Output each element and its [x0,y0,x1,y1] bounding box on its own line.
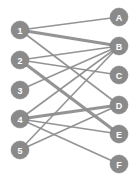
graph-node-2[interactable]: 2 [11,51,29,69]
node-circle[interactable] [11,110,29,128]
graph-node-4[interactable]: 4 [11,110,29,128]
node-circle[interactable] [110,155,128,173]
node-circle[interactable] [11,21,29,39]
node-circle[interactable] [110,66,128,84]
node-circle[interactable] [11,51,29,69]
graph-edge [20,17,119,30]
graph-node-5[interactable]: 5 [11,141,29,159]
graph-node-f[interactable]: F [110,155,128,173]
node-circle[interactable] [110,125,128,143]
graph-node-a[interactable]: A [110,8,128,26]
node-circle[interactable] [110,37,128,55]
graph-node-1[interactable]: 1 [11,21,29,39]
nodes-layer: 12345ABCDEF [11,8,128,173]
graph-node-3[interactable]: 3 [11,81,29,99]
graph-node-b[interactable]: B [110,37,128,55]
node-circle[interactable] [11,141,29,159]
graph-node-c[interactable]: C [110,66,128,84]
graph-edge [20,30,119,46]
graph-canvas: 12345ABCDEF [0,0,139,185]
node-circle[interactable] [110,96,128,114]
graph-node-e[interactable]: E [110,125,128,143]
edges-layer [20,17,119,164]
node-circle[interactable] [110,8,128,26]
graph-node-d[interactable]: D [110,96,128,114]
node-circle[interactable] [11,81,29,99]
bipartite-graph-figure: 12345ABCDEF [0,0,139,185]
